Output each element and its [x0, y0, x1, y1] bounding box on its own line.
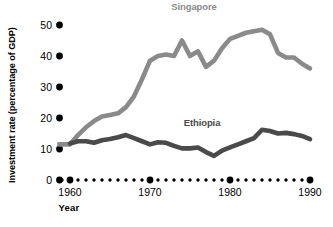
y-tick-label: 20 — [40, 112, 52, 124]
x-axis-minor-year-dot — [180, 178, 183, 181]
x-axis-minor-year-dot — [172, 178, 175, 181]
x-axis-minor-year-dot — [268, 178, 271, 181]
x-axis-minor-year-dot — [124, 178, 127, 181]
x-tick-label: 1960 — [58, 186, 82, 198]
x-axis-minor-year-dot — [212, 178, 215, 181]
y-tick-label: 40 — [40, 50, 52, 62]
y-tick-dot — [56, 115, 63, 122]
x-axis-minor-year-dot — [204, 178, 207, 181]
x-axis-major-year-dot — [307, 177, 314, 184]
x-axis-title: Year — [59, 202, 80, 213]
x-axis-minor-year-dot — [276, 178, 279, 181]
x-axis-minor-year-dot — [92, 178, 95, 181]
series-label-singapore: Singapore — [171, 1, 217, 12]
x-axis-minor-year-dot — [196, 178, 199, 181]
x-axis-major-year-dot — [67, 177, 74, 184]
x-axis-minor-year-dot — [156, 178, 159, 181]
y-tick-dot — [56, 53, 63, 60]
x-axis-minor-year-dot — [132, 178, 135, 181]
x-axis-minor-year-dot — [108, 178, 111, 181]
x-axis-minor-year-dot — [84, 178, 87, 181]
y-tick-label: 10 — [40, 143, 52, 155]
x-axis-minor-year-dot — [188, 178, 191, 181]
x-axis-minor-year-dot — [116, 178, 119, 181]
series-label-ethiopia: Ethiopia — [184, 117, 221, 128]
x-axis-minor-year-dot — [60, 178, 63, 181]
y-tick-label: 0 — [46, 174, 52, 186]
x-tick-label: 1980 — [218, 186, 242, 198]
x-axis-minor-year-dot — [260, 178, 263, 181]
x-axis-major-year-dot — [147, 177, 154, 184]
investment-rate-line-chart: Investment rate (percentage of GDP) 0102… — [0, 0, 333, 227]
x-axis-title-text: Year — [59, 202, 80, 213]
x-tick-label: 1970 — [138, 186, 162, 198]
x-axis-minor-year-dot — [236, 178, 239, 181]
y-axis-title-text: Investment rate (percentage of GDP) — [7, 27, 17, 183]
x-axis-minor-year-dot — [140, 178, 143, 181]
x-axis-minor-year-dot — [244, 178, 247, 181]
y-tick-dot — [56, 22, 63, 29]
x-tick-label: 1990 — [298, 186, 322, 198]
x-axis-minor-year-dot — [76, 178, 79, 181]
y-axis-title: Investment rate (percentage of GDP) — [7, 27, 17, 183]
x-axis-major-year-dot — [227, 177, 234, 184]
y-tick-label: 50 — [40, 19, 52, 31]
x-axis-minor-year-dot — [300, 178, 303, 181]
chart-container: Investment rate (percentage of GDP) 0102… — [0, 0, 333, 227]
x-axis-minor-year-dot — [100, 178, 103, 181]
y-tick-label: 30 — [40, 81, 52, 93]
x-axis-minor-year-dot — [292, 178, 295, 181]
x-axis-minor-year-dot — [284, 178, 287, 181]
x-axis-minor-year-dot — [220, 178, 223, 181]
x-axis-minor-year-dot — [252, 178, 255, 181]
y-tick-dot — [56, 84, 63, 91]
x-axis-minor-year-dot — [164, 178, 167, 181]
